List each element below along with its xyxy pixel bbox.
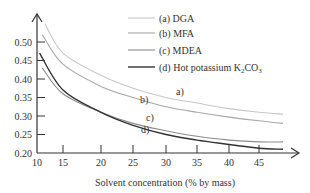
x-tick-label: 40 [224, 157, 234, 168]
curves [40, 24, 283, 150]
curve-c [42, 68, 283, 142]
x-tick-label: 15 [58, 157, 68, 168]
x-tick-label: 30 [161, 157, 171, 168]
legend-label: (c) MDEA [159, 45, 203, 57]
curve-label-a: a) [176, 86, 184, 98]
x-tick-label: 20 [96, 157, 106, 168]
y-tick-label: 0.40 [15, 74, 33, 85]
curve-label-d: d) [141, 124, 149, 136]
x-axis-title: Solvent concentration (% by mass) [95, 177, 235, 189]
legend-label: (d) Hot potassium K2CO3 [159, 62, 262, 76]
x-tick-label: 35 [192, 157, 202, 168]
x-tick-label: 45 [254, 157, 264, 168]
x-ticks: 1015202530354045 [32, 145, 264, 168]
x-tick-label: 10 [32, 157, 42, 168]
y-tick-label: 0.20 [15, 148, 33, 159]
x-tick-label: 25 [128, 157, 138, 168]
y-tick-label: 0.25 [15, 129, 33, 140]
curve-labels: a)b)c)d) [140, 86, 184, 136]
y-tick-label: 0.35 [15, 92, 33, 103]
curve-label-c: c) [146, 112, 154, 124]
legend: (a) DGA(b) MFA(c) MDEA(d) Hot potassium … [128, 13, 262, 76]
y-tick-label: 0.45 [15, 55, 33, 66]
y-tick-label: 0.30 [15, 111, 33, 122]
line-chart: 0.200.250.300.350.400.450.50 10152025303… [0, 0, 310, 193]
legend-label: (a) DGA [159, 13, 195, 25]
curve-label-b: b) [140, 94, 148, 106]
legend-label: (b) MFA [159, 28, 195, 40]
y-tick-label: 0.50 [15, 37, 33, 48]
